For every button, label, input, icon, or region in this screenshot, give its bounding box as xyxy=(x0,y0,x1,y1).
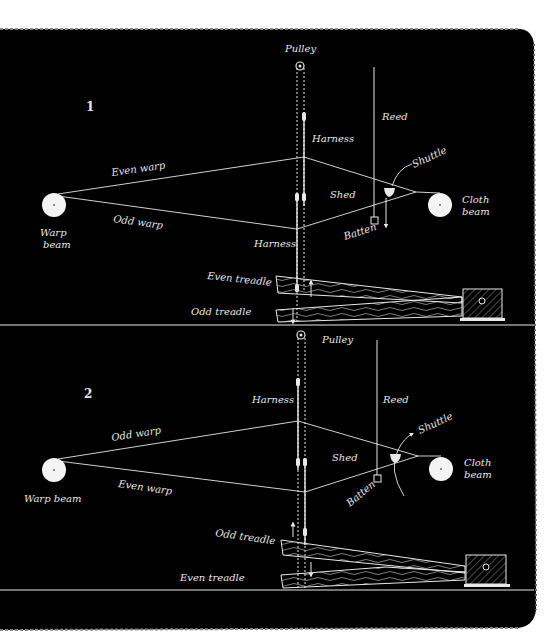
heddle-knot xyxy=(296,458,300,466)
cloth-beam-label: Cloth xyxy=(462,194,489,205)
reed-label: Reed xyxy=(381,111,408,122)
heddle-knot xyxy=(302,193,306,201)
harness-bottom-label: Harness xyxy=(253,238,296,249)
shed-label: Shed xyxy=(332,452,358,463)
cloth-beam-label: beam xyxy=(462,206,490,217)
pulley-label: Pulley xyxy=(321,334,353,345)
pulley-label: Pulley xyxy=(284,43,316,54)
harness-top-label: Harness xyxy=(311,133,354,144)
cloth-beam-label: beam xyxy=(464,469,492,480)
heddle-knot xyxy=(302,112,306,121)
lower-treadle-label: Odd treadle xyxy=(191,306,251,317)
loom-diagram: 1 Pulley Harness Harness Reed Batten War… xyxy=(0,0,556,644)
heddle-knot xyxy=(303,458,307,466)
warp-beam-label: beam xyxy=(43,239,71,250)
panel-number: 2 xyxy=(84,387,92,401)
harness-top-label: Harness xyxy=(251,394,294,405)
warp-beam-label: Warp xyxy=(40,227,67,238)
reed-label: Reed xyxy=(382,394,409,405)
shed-label: Shed xyxy=(330,189,356,200)
cloth-beam-label: Cloth xyxy=(464,457,491,468)
lower-treadle-label: Even treadle xyxy=(179,572,245,583)
heddle-knot xyxy=(295,193,299,201)
heddle-knot xyxy=(296,378,300,386)
warp-beam-label: Warp beam xyxy=(24,493,82,504)
panel-number: 1 xyxy=(86,100,94,114)
heddle-knot xyxy=(303,528,307,536)
